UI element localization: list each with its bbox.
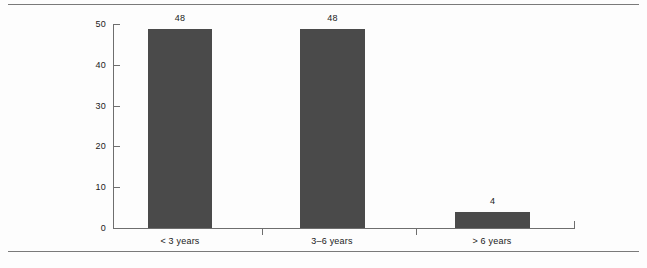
x-category-label-0: < 3 years [120,236,240,246]
x-tick-mark-1 [262,229,263,235]
bar-value-2: 4 [455,196,530,206]
y-tick-mark-30 [114,106,120,107]
bar-2[interactable] [455,212,530,228]
x-category-label-2: > 6 years [432,236,552,246]
x-tick-mark-2 [416,229,417,235]
y-tick-label-0: 0 [80,223,106,233]
bar-1[interactable] [300,29,365,228]
y-tick-label-50: 50 [80,19,106,29]
y-tick-mark-10 [114,187,120,188]
bar-value-1: 48 [300,13,365,23]
bar-0[interactable] [148,29,212,228]
y-tick-label-40: 40 [80,60,106,70]
y-tick-label-30: 30 [80,101,106,111]
bar-chart-plot-area: 0 10 20 30 40 50 48 48 4 < 3 years 3–6 y… [0,0,647,268]
y-tick-mark-20 [114,146,120,147]
y-axis-line [113,24,114,229]
figure-container: 0 10 20 30 40 50 48 48 4 < 3 years 3–6 y… [0,0,647,268]
bar-value-0: 48 [148,13,212,23]
y-tick-mark-0 [114,228,120,229]
y-tick-mark-50 [114,24,120,25]
y-tick-label-10: 10 [80,182,106,192]
y-tick-mark-40 [114,65,120,66]
x-axis-end-tick [574,221,575,229]
x-category-label-1: 3–6 years [272,236,392,246]
y-tick-label-20: 20 [80,141,106,151]
x-axis-line [113,228,575,229]
